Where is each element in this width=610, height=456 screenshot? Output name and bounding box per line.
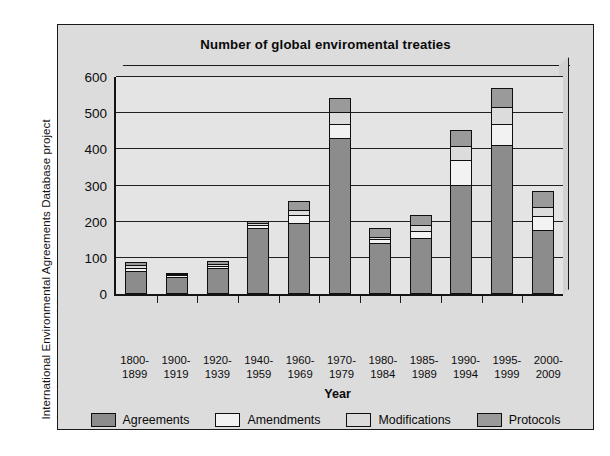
legend-label-agreements: Agreements (123, 413, 190, 427)
x-axis-label-1985-1989: 1985-1989 (404, 354, 445, 381)
bar-segment-amendments (289, 216, 309, 224)
bar-segment-agreements (492, 146, 512, 293)
bar-segment-amendments (451, 161, 471, 186)
x-axis-label-1960-1969: 1960-1969 (279, 354, 320, 381)
plot-area: 0100200300400500600 (114, 77, 563, 296)
source-credit-line1: International Environmental Agreements D… (40, 119, 52, 419)
bar-segment-protocols (492, 89, 512, 108)
chart-title: Number of global enviromental treaties (58, 37, 593, 52)
legend-swatch-protocols (477, 413, 502, 427)
y-axis-label-300: 300 (84, 178, 107, 193)
y-axis-label-100: 100 (84, 250, 107, 265)
x-axis-tick (279, 294, 280, 303)
legend-swatch-agreements (91, 413, 116, 427)
bar-segment-agreements (208, 269, 228, 293)
bar-segment-amendments (533, 217, 553, 230)
legend-swatch-modifications (346, 413, 371, 427)
bar-slot (360, 77, 401, 294)
x-axis-tick (441, 294, 442, 303)
y-axis-label-0: 0 (99, 287, 107, 302)
x-axis-labels: 1800-18991900-19191920-19391940-19591960… (114, 354, 569, 381)
chart-legend: AgreementsAmendmentsModificationsProtoco… (58, 413, 593, 427)
stacked-bar[interactable] (288, 201, 310, 294)
bar-segment-agreements (451, 186, 471, 293)
y-axis-label-200: 200 (84, 214, 107, 229)
x-axis-ticks (116, 294, 563, 303)
x-axis-title: Year (114, 387, 561, 401)
source-credit: International Environmental Agreements D… (39, 120, 54, 420)
legend-item-agreements[interactable]: Agreements (91, 413, 190, 427)
bar-segment-modifications (330, 113, 350, 125)
legend-item-modifications[interactable]: Modifications (346, 413, 450, 427)
bar-slot (116, 77, 157, 294)
x-axis-tick (197, 294, 198, 303)
stacked-bar[interactable] (166, 273, 188, 294)
legend-label-protocols: Protocols (509, 413, 561, 427)
chart-screenshot: International Environmental Agreements D… (0, 0, 610, 456)
legend-swatch-amendments (215, 413, 240, 427)
x-axis-tick (319, 294, 320, 303)
stacked-bar[interactable] (532, 191, 554, 294)
bar-segment-protocols (370, 229, 390, 237)
y-axis-label-500: 500 (84, 106, 107, 121)
bar-segment-protocols (330, 99, 350, 113)
x-axis-label-1920-1939: 1920-1939 (197, 354, 238, 381)
bar-slot (482, 77, 523, 294)
y-axis-label-600: 600 (84, 70, 107, 85)
bar-slot (319, 77, 360, 294)
x-axis-tick (360, 294, 361, 303)
x-axis-tick (482, 294, 483, 303)
bar-segment-agreements (533, 231, 553, 293)
x-axis-tick (238, 294, 239, 303)
bar-segment-agreements (167, 278, 187, 293)
bar-slot (522, 77, 563, 294)
bar-segment-protocols (533, 192, 553, 208)
stacked-bar[interactable] (410, 215, 432, 294)
bar-slot (441, 77, 482, 294)
x-axis-tick (522, 294, 523, 303)
bar-group (116, 77, 563, 294)
stacked-bar[interactable] (369, 228, 391, 294)
bar-segment-protocols (289, 202, 309, 211)
x-axis-label-1980-1984: 1980-1984 (362, 354, 403, 381)
bar-segment-agreements (248, 229, 268, 293)
x-axis-label-2000-2009: 2000-2009 (528, 354, 569, 381)
legend-item-protocols[interactable]: Protocols (477, 413, 561, 427)
x-axis-label-1940-1959: 1940-1959 (238, 354, 279, 381)
bar-segment-agreements (370, 244, 390, 293)
stacked-bar[interactable] (491, 88, 513, 294)
bar-slot (279, 77, 320, 294)
stacked-bar[interactable] (125, 262, 147, 294)
stacked-bar[interactable] (207, 261, 229, 294)
bar-segment-agreements (330, 139, 350, 293)
bar-slot (197, 77, 238, 294)
bar-segment-modifications (492, 108, 512, 124)
bar-segment-amendments (492, 125, 512, 146)
x-axis-label-1970-1979: 1970-1979 (321, 354, 362, 381)
x-axis-tick (400, 294, 401, 303)
x-axis-label-1900-1919: 1900-1919 (155, 354, 196, 381)
plot-wrap: 0100200300400500600 (114, 65, 569, 340)
bar-slot (238, 77, 279, 294)
legend-item-amendments[interactable]: Amendments (215, 413, 320, 427)
y-axis-label-400: 400 (84, 142, 107, 157)
x-axis-label-1800-1899: 1800-1899 (114, 354, 155, 381)
legend-label-amendments: Amendments (247, 413, 320, 427)
bar-segment-amendments (330, 125, 350, 139)
bar-slot (157, 77, 198, 294)
bar-segment-amendments (411, 232, 431, 240)
bar-segment-modifications (533, 208, 553, 218)
x-axis-tick (157, 294, 158, 303)
stacked-bar[interactable] (329, 98, 351, 294)
bar-slot (400, 77, 441, 294)
x-axis-label-1990-1994: 1990-1994 (445, 354, 486, 381)
chart-frame: Number of global enviromental treaties 0… (57, 24, 594, 430)
legend-label-modifications: Modifications (378, 413, 450, 427)
stacked-bar[interactable] (247, 221, 269, 294)
bar-segment-protocols (451, 131, 471, 147)
bar-segment-agreements (126, 272, 146, 293)
stacked-bar[interactable] (450, 130, 472, 294)
bar-segment-agreements (289, 224, 309, 293)
x-axis-label-1995-1999: 1995-1999 (486, 354, 527, 381)
bar-segment-modifications (451, 147, 471, 161)
